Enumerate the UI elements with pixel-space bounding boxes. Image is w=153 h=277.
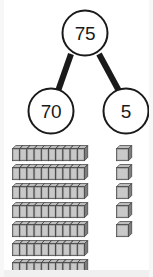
part-b-value-label: 5 [103, 102, 149, 121]
tens-rod [12, 145, 89, 166]
tens-rod-graphic [12, 221, 89, 238]
connector-right [99, 54, 119, 91]
tens-rod [12, 221, 89, 242]
ones-cube-graphic [116, 183, 133, 200]
tens-rod-graphic [12, 164, 89, 181]
tens-rod-graphic [12, 202, 89, 219]
ones-cube [116, 221, 133, 242]
page-bottom-strip [0, 270, 153, 277]
worksheet-canvas: 75 70 5 [0, 0, 153, 277]
ones-cube-graphic [116, 164, 133, 181]
ones-cube [116, 183, 133, 204]
page-right-edge [149, 0, 153, 277]
number-bond: 75 70 5 [0, 0, 153, 140]
tens-rod-graphic [12, 183, 89, 200]
tens-rod [12, 240, 89, 261]
ones-cube [116, 145, 133, 166]
connector-left [58, 54, 71, 91]
base-ten-blocks [0, 140, 153, 277]
ones-cube [116, 202, 133, 223]
total-value-label: 75 [62, 24, 108, 43]
ones-cube-graphic [116, 145, 133, 162]
page-left-edge [0, 0, 4, 277]
tens-rod-graphic [12, 240, 89, 257]
tens-rod [12, 202, 89, 223]
tens-rod [12, 164, 89, 185]
ones-cube [116, 164, 133, 185]
ones-cube-graphic [116, 202, 133, 219]
tens-rod-graphic [12, 145, 89, 162]
tens-rod [12, 183, 89, 204]
part-a-value-label: 70 [28, 102, 74, 121]
ones-cube-graphic [116, 221, 133, 238]
bond-connectors [58, 54, 119, 91]
